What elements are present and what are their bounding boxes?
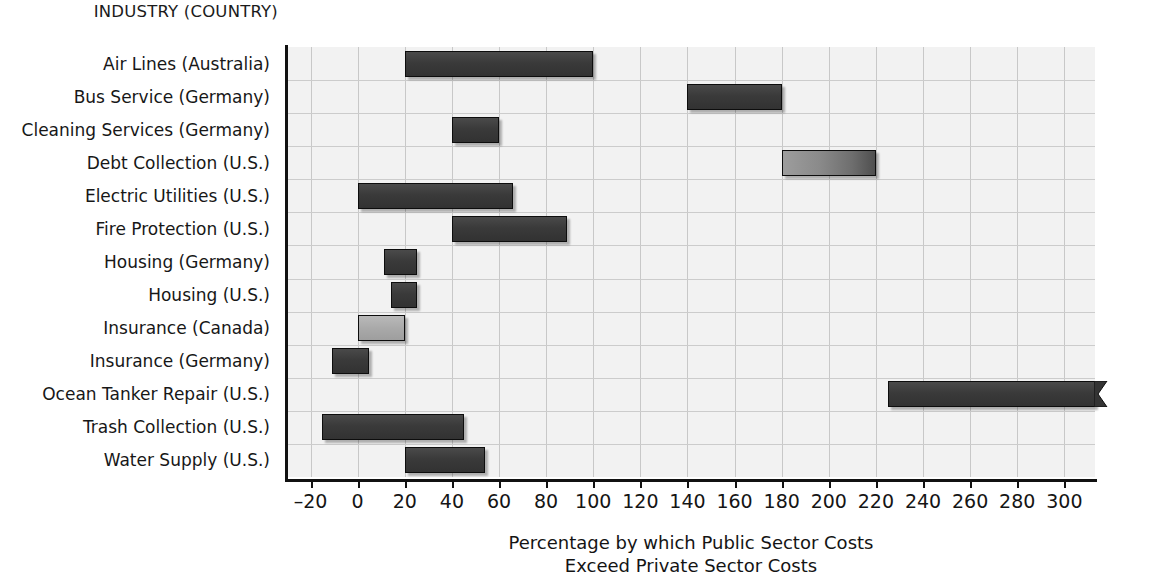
x-axis-tick-label: 80 <box>534 492 558 511</box>
x-axis-title-line1: Percentage by which Public Sector Costs <box>287 531 1095 554</box>
gridline-vertical <box>1064 47 1065 477</box>
category-axis-labels: Air Lines (Australia)Bus Service (German… <box>0 47 278 477</box>
x-axis-tick-label: 200 <box>811 492 847 511</box>
category-label: Insurance (Canada) <box>0 320 270 337</box>
gridline-horizontal <box>287 113 1095 114</box>
bar-debt-collection-u-s <box>782 150 876 176</box>
x-axis-tick <box>876 479 878 488</box>
x-axis-tick <box>593 479 595 488</box>
x-axis-tick <box>970 479 972 488</box>
x-axis-tick-label: 140 <box>669 492 705 511</box>
x-axis-tick-label: 0 <box>352 492 364 511</box>
gridline-vertical <box>358 47 359 477</box>
category-label: Debt Collection (U.S.) <box>0 155 270 172</box>
category-label: Housing (Germany) <box>0 254 270 271</box>
category-label: Ocean Tanker Repair (U.S.) <box>0 386 270 403</box>
gridline-horizontal <box>287 80 1095 81</box>
gridline-horizontal <box>287 245 1095 246</box>
bar-water-supply-u-s <box>405 447 485 473</box>
x-axis-tick-label: 300 <box>1046 492 1082 511</box>
gridline-vertical <box>546 47 547 477</box>
bar-housing-germany <box>384 249 417 275</box>
x-axis-tick-label: 120 <box>622 492 658 511</box>
x-axis-tick <box>499 479 501 488</box>
gridline-vertical <box>876 47 877 477</box>
gridline-horizontal <box>287 146 1095 147</box>
category-label: Insurance (Germany) <box>0 353 270 370</box>
x-axis-tick-label: 100 <box>575 492 611 511</box>
x-axis-tick <box>829 479 831 488</box>
gridline-horizontal <box>287 345 1095 346</box>
x-axis-tick-label: 60 <box>487 492 511 511</box>
bar-insurance-germany <box>332 348 370 374</box>
gridline-vertical <box>687 47 688 477</box>
gridline-vertical <box>782 47 783 477</box>
x-axis-tick <box>1017 479 1019 488</box>
plot-area <box>287 47 1095 477</box>
x-axis-tick-label: –20 <box>294 492 328 511</box>
x-axis-tick <box>452 479 454 488</box>
category-label: Bus Service (Germany) <box>0 89 270 106</box>
category-label: Fire Protection (U.S.) <box>0 221 270 238</box>
x-axis-tick <box>405 479 407 488</box>
gridline-vertical <box>640 47 641 477</box>
gridline-vertical <box>593 47 594 477</box>
gridline-horizontal <box>287 378 1095 379</box>
x-axis-tick-label: 40 <box>440 492 464 511</box>
gridline-horizontal <box>287 212 1095 213</box>
x-axis-tick <box>311 479 313 488</box>
x-axis-tick <box>358 479 360 488</box>
category-axis-header: INDUSTRY (COUNTRY) <box>0 2 278 21</box>
x-axis-tick <box>923 479 925 488</box>
bar-fire-protection-u-s <box>452 216 567 242</box>
category-label: Air Lines (Australia) <box>0 56 270 73</box>
x-axis-tick <box>687 479 689 488</box>
x-axis-tick <box>640 479 642 488</box>
bar-electric-utilities-u-s <box>358 183 513 209</box>
bar-trash-collection-u-s <box>322 414 463 440</box>
gridline-vertical <box>970 47 971 477</box>
x-axis-tick-label: 220 <box>858 492 894 511</box>
x-axis-tick <box>1064 479 1066 488</box>
x-axis-tick <box>782 479 784 488</box>
bar-housing-u-s <box>391 282 417 308</box>
range-bar-chart: INDUSTRY (COUNTRY) Air Lines (Australia)… <box>0 0 1163 585</box>
x-axis-tick <box>735 479 737 488</box>
gridline-horizontal <box>287 279 1095 280</box>
category-label: Housing (U.S.) <box>0 287 270 304</box>
bar-air-lines-australia <box>405 51 593 77</box>
x-axis-tick-label: 180 <box>764 492 800 511</box>
x-axis-line <box>285 479 1097 482</box>
gridline-vertical <box>452 47 453 477</box>
bar-cleaning-services-germany <box>452 117 499 143</box>
x-axis-tick-label: 240 <box>905 492 941 511</box>
x-axis-title: Percentage by which Public Sector Costs … <box>287 531 1095 577</box>
x-axis-tick-label: 20 <box>393 492 417 511</box>
gridline-vertical <box>311 47 312 477</box>
category-label: Water Supply (U.S.) <box>0 452 270 469</box>
bar-insurance-canada <box>358 315 405 341</box>
gridline-horizontal <box>287 179 1095 180</box>
gridline-vertical <box>1017 47 1018 477</box>
category-label: Trash Collection (U.S.) <box>0 419 270 436</box>
y-axis-line <box>285 45 288 482</box>
plot-inner <box>287 47 1095 477</box>
x-axis-tick <box>546 479 548 488</box>
axis-break-marker-icon <box>1094 381 1108 407</box>
bar-ocean-tanker-repair-u-s <box>888 381 1095 407</box>
x-axis-tick-label: 160 <box>716 492 752 511</box>
category-label: Electric Utilities (U.S.) <box>0 188 270 205</box>
gridline-vertical <box>829 47 830 477</box>
category-label: Cleaning Services (Germany) <box>0 122 270 139</box>
gridline-horizontal <box>287 411 1095 412</box>
gridline-vertical <box>735 47 736 477</box>
gridline-vertical <box>923 47 924 477</box>
x-axis-tick-label: 260 <box>952 492 988 511</box>
bar-bus-service-germany <box>687 84 781 110</box>
gridline-vertical <box>499 47 500 477</box>
x-axis-title-line2: Exceed Private Sector Costs <box>287 554 1095 577</box>
gridline-horizontal <box>287 312 1095 313</box>
x-axis-tick-label: 280 <box>999 492 1035 511</box>
gridline-horizontal <box>287 444 1095 445</box>
